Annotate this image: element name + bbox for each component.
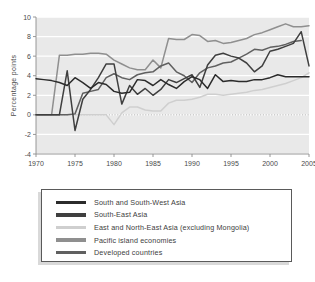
x-axis-tick-label: 2000 [262,160,278,167]
legend-item-label: East and North-East Asia (excluding Mong… [94,223,249,232]
x-axis-tick-label: 2005 [301,160,315,167]
line-chart: 1086420-2-419701975198019851990199520002… [0,0,315,182]
x-axis-tick-label: 1995 [223,160,239,167]
plot-background [36,17,309,154]
y-axis-tick-label: 6 [27,53,31,60]
x-axis-tick-label: 1975 [67,160,83,167]
legend-item-label: Developed countries [94,248,162,257]
x-axis-tick-label: 1980 [106,160,122,167]
legend-item-label: Pacific island economies [94,236,176,245]
y-axis-tick-label: 2 [27,92,31,99]
y-axis-tick-label: 10 [23,14,31,21]
y-axis-tick-label: 8 [27,33,31,40]
legend-swatch-icon [56,213,86,216]
y-axis-tick-label: 0 [27,111,31,118]
legend-swatch-icon [56,238,86,241]
x-axis-tick-label: 1985 [145,160,161,167]
y-axis-tick-label: 4 [27,72,31,79]
legend-item[interactable]: Developed countries [56,246,291,259]
legend-item-label: South-East Asia [94,210,147,219]
y-axis-tick-label: -2 [25,131,31,138]
y-axis-title: Percentage points [10,55,18,117]
chart-legend: South and South-West AsiaSouth-East Asia… [41,189,292,262]
legend-item-label: South and South-West Asia [94,198,186,207]
legend-item[interactable]: Pacific island economies [56,234,291,247]
x-axis-tick-label: 1970 [28,160,44,167]
legend-swatch-icon [56,226,86,229]
x-axis-tick-label: 1990 [184,160,200,167]
legend-swatch-icon [56,201,86,204]
y-axis-tick-label: -4 [25,151,31,158]
legend-item[interactable]: South and South-West Asia [56,196,291,209]
legend-item[interactable]: East and North-East Asia (excluding Mong… [56,221,291,234]
legend-item[interactable]: South-East Asia [56,209,291,222]
legend-swatch-icon [56,251,86,254]
